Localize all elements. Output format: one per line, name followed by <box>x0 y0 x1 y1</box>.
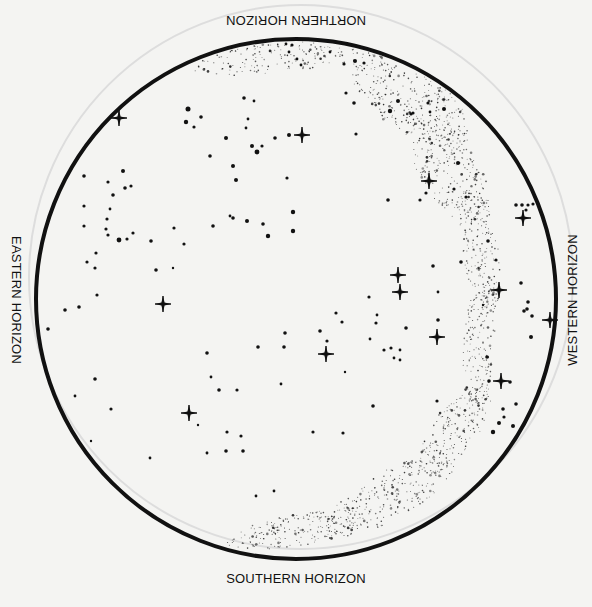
star <box>224 449 228 453</box>
star <box>235 388 238 391</box>
star <box>231 164 235 168</box>
star <box>217 388 221 392</box>
bright-star-icon <box>181 405 197 421</box>
star <box>285 43 288 46</box>
star <box>109 407 112 410</box>
star <box>93 266 96 269</box>
star <box>261 222 265 226</box>
star <box>211 224 215 228</box>
star <box>117 238 122 243</box>
star <box>208 154 212 158</box>
star <box>95 293 98 296</box>
star <box>131 231 134 234</box>
star <box>109 208 112 211</box>
star <box>206 452 208 454</box>
star <box>456 161 460 165</box>
star <box>382 348 385 351</box>
bright-star-markers <box>111 110 558 421</box>
star <box>205 351 209 355</box>
star <box>352 101 356 105</box>
star <box>399 349 402 352</box>
star <box>426 101 429 104</box>
star <box>486 239 490 243</box>
bright-star-icon <box>429 329 445 345</box>
star <box>524 208 527 211</box>
star <box>487 379 491 383</box>
star <box>376 314 379 317</box>
star <box>340 320 343 323</box>
star <box>334 311 337 314</box>
bright-star-icon <box>392 284 408 300</box>
star <box>502 415 505 418</box>
star <box>362 61 365 64</box>
star <box>353 59 357 63</box>
star <box>253 100 256 103</box>
star <box>250 144 254 148</box>
star <box>501 407 505 411</box>
star <box>63 308 67 312</box>
star <box>282 345 286 349</box>
star <box>511 424 515 428</box>
star <box>485 355 489 359</box>
star <box>386 198 390 202</box>
star <box>199 115 203 119</box>
star <box>74 395 77 398</box>
star <box>85 260 88 263</box>
star <box>245 127 248 130</box>
star <box>288 51 291 54</box>
star <box>530 314 534 318</box>
star <box>531 202 534 205</box>
star <box>354 132 357 135</box>
star <box>342 62 345 65</box>
star <box>367 295 370 298</box>
star <box>245 219 249 223</box>
star <box>437 291 440 294</box>
star <box>526 203 529 206</box>
star <box>459 260 463 264</box>
star <box>436 318 440 322</box>
star <box>409 112 412 115</box>
star <box>431 264 435 268</box>
star <box>106 180 109 183</box>
star <box>396 99 400 103</box>
star <box>291 210 295 214</box>
star <box>154 268 158 272</box>
star <box>442 107 446 111</box>
star <box>82 174 86 178</box>
star <box>224 136 228 140</box>
star <box>290 43 293 46</box>
star <box>234 178 238 182</box>
star <box>482 304 484 306</box>
star <box>123 186 127 190</box>
star <box>197 424 199 426</box>
star <box>369 338 372 341</box>
star <box>519 281 523 285</box>
star <box>149 239 153 243</box>
star <box>529 335 533 339</box>
star <box>77 305 81 309</box>
star <box>280 383 283 386</box>
star <box>239 434 242 437</box>
star <box>229 215 232 218</box>
star <box>344 371 346 373</box>
star <box>424 191 427 194</box>
star <box>125 237 128 240</box>
star <box>186 107 191 112</box>
bright-star-icon <box>318 346 334 362</box>
star <box>172 226 175 229</box>
star <box>520 203 524 207</box>
star <box>231 216 235 220</box>
star <box>104 227 107 230</box>
star <box>225 430 228 433</box>
star <box>121 169 125 173</box>
star <box>46 327 50 331</box>
star <box>129 184 132 187</box>
star <box>514 203 518 207</box>
star <box>90 440 92 442</box>
star <box>464 195 467 198</box>
star <box>273 136 277 140</box>
star <box>514 402 518 406</box>
star <box>393 357 396 360</box>
star <box>182 242 185 245</box>
star <box>522 309 526 313</box>
